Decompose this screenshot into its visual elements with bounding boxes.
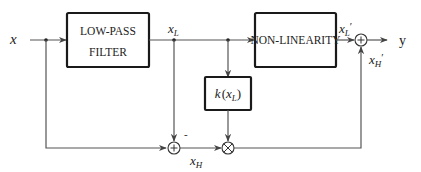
signal-label-xL: xL (167, 21, 179, 38)
nonlinearity-label: NON-LINEARITY (250, 34, 341, 46)
gain-block-k: k(xL) (205, 77, 251, 110)
lowpass-label-line2: FILTER (89, 46, 127, 58)
sum-junction-top (355, 34, 367, 46)
minus-sign: - (184, 128, 188, 140)
signal-label-xL-prime: xL′ (338, 20, 352, 38)
nonlinearity-block: NON-LINEARITY (250, 13, 341, 67)
gain-label: k(xL) (215, 86, 241, 103)
block-diagram: x LOW-PASS FILTER xL - k(xL) xH (0, 0, 421, 172)
signal-label-xH-prime: xH′ (368, 51, 384, 69)
multiplier-junction (222, 142, 234, 154)
input-label-x: x (9, 31, 17, 47)
signal-label-xH: xH (189, 153, 203, 170)
lowpass-filter-block: LOW-PASS FILTER (67, 13, 149, 67)
output-label-y: y (399, 33, 406, 48)
sum-junction-bottom (168, 142, 180, 154)
lowpass-label-line1: LOW-PASS (80, 25, 136, 37)
